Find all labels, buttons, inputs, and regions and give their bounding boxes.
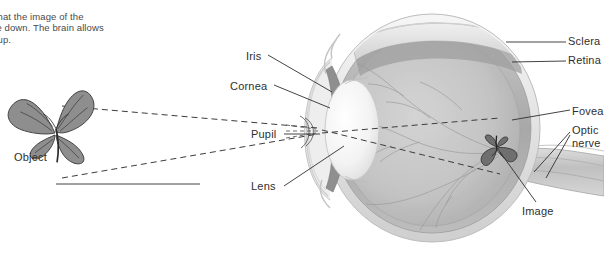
label-lens: Lens [251,180,276,193]
label-iris: Iris [246,50,261,63]
label-retina: Retina [568,54,601,67]
label-pupil: Pupil [251,128,276,141]
label-object: Object [14,151,47,164]
label-cornea: Cornea [230,80,267,93]
label-sclera: Sclera [568,35,600,48]
label-image: Image [522,205,554,218]
eye-illustration [0,0,604,258]
eye-diagram-figure: te that the image of the side down. The … [0,0,604,258]
label-fovea: Fovea [572,105,604,118]
label-optic-nerve: Optic nerve [572,124,602,149]
